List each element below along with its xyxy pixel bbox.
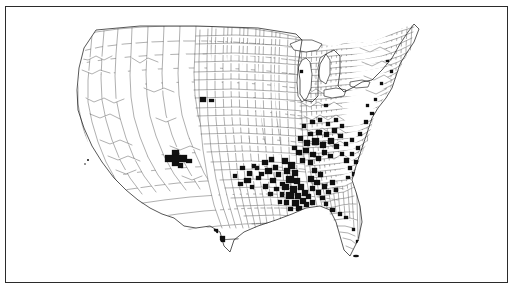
county-mesh-east bbox=[300, 26, 414, 249]
us-county-map bbox=[0, 0, 516, 293]
figure-page bbox=[0, 0, 516, 293]
map-stage bbox=[0, 0, 516, 293]
figure-caption bbox=[5, 284, 508, 293]
